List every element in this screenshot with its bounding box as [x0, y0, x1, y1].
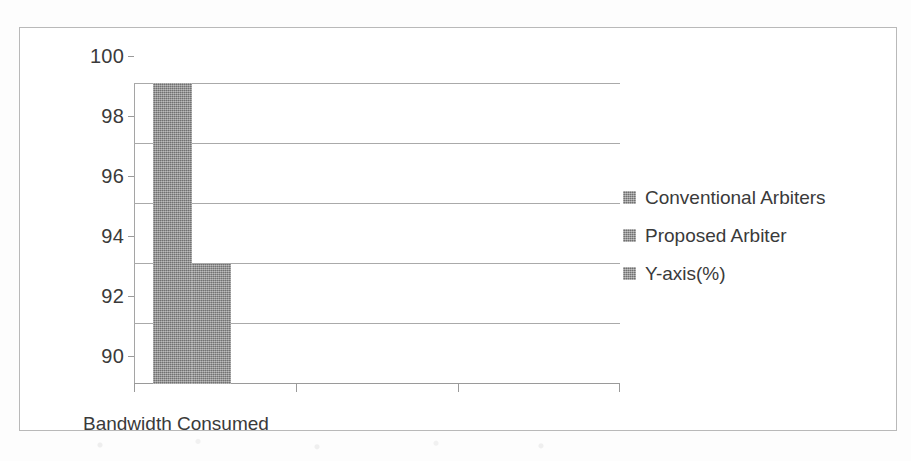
y-tick-label-100: 100 — [90, 46, 124, 66]
legend-label-y-axis-percent: Y-axis(%) — [645, 263, 726, 284]
legend-label-conventional-arbiters: Conventional Arbiters — [645, 187, 826, 208]
bar-conventional-arbiters-bandwidth-consumed[interactable] — [153, 83, 192, 384]
scan-artifact-speckle — [30, 436, 730, 454]
x-tick-mark-1 — [296, 384, 297, 392]
y-tick-label-96: 96 — [101, 166, 124, 186]
legend-swatch-icon — [623, 267, 636, 280]
scanned-page-background: 100 98 96 94 92 90 — [0, 0, 911, 461]
chart-frame: 100 98 96 94 92 90 — [19, 27, 897, 431]
y-tick-label-98: 98 — [101, 106, 124, 126]
y-tick-mark-100 — [128, 56, 134, 57]
chart-legend: Conventional Arbiters Proposed Arbiter Y… — [623, 178, 903, 292]
x-tick-mark-3 — [619, 384, 620, 392]
y-tick-label-94: 94 — [101, 226, 124, 246]
legend-swatch-icon — [623, 229, 636, 242]
legend-item-y-axis-percent[interactable]: Y-axis(%) — [623, 254, 903, 292]
legend-swatch-icon — [623, 191, 636, 204]
gridline-96 — [134, 203, 620, 204]
plot-area — [134, 83, 620, 384]
legend-item-proposed-arbiter[interactable]: Proposed Arbiter — [623, 216, 903, 254]
y-tick-label-92: 92 — [101, 286, 124, 306]
x-tick-mark-2 — [458, 384, 459, 392]
y-tick-label-90: 90 — [101, 346, 124, 366]
x-axis-category-label-bandwidth-consumed: Bandwidth Consumed — [83, 413, 269, 435]
x-tick-mark-0 — [134, 384, 135, 392]
legend-item-conventional-arbiters[interactable]: Conventional Arbiters — [623, 178, 903, 216]
bar-proposed-arbiter-bandwidth-consumed[interactable] — [192, 264, 231, 384]
y-axis-tick-labels: 100 98 96 94 92 90 — [44, 28, 124, 432]
legend-label-proposed-arbiter: Proposed Arbiter — [645, 225, 787, 246]
gridline-98 — [134, 143, 620, 144]
gridline-100 — [134, 83, 620, 84]
